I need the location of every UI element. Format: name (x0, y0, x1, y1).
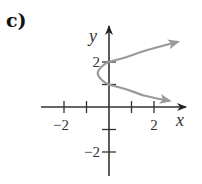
y-axis-label: y (87, 26, 97, 46)
x-axis-label: x (175, 110, 184, 130)
x-tick-label: −2 (53, 117, 69, 133)
x-tick-label: 2 (150, 117, 158, 133)
y-tick-label: 2 (93, 54, 101, 70)
graph-plot: −222−2 x y (0, 0, 202, 184)
y-tick-label: −2 (84, 144, 100, 160)
